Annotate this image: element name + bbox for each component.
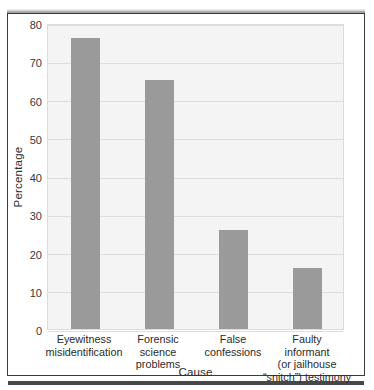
y-axis-tick-label: 80 — [0, 20, 42, 31]
y-axis-tick-label: 20 — [0, 249, 42, 260]
y-axis-tick-label: 40 — [0, 173, 42, 184]
y-axis-tick-label: 60 — [0, 96, 42, 107]
y-axis-tick-label: 10 — [0, 287, 42, 298]
bar — [71, 38, 100, 329]
plot-area: Percentage 01020304050607080 — [47, 24, 344, 330]
x-axis-label: Cause — [47, 366, 344, 378]
x-axis-category-label-line: informant — [261, 346, 353, 359]
bar-chart: Percentage 01020304050607080 Eyewitnessm… — [0, 0, 374, 390]
y-axis-tick-label: 0 — [0, 326, 42, 337]
y-axis-tick-label: 30 — [0, 211, 42, 222]
bar — [293, 268, 322, 329]
bar — [145, 80, 174, 329]
bar — [219, 230, 248, 329]
y-axis-tick-label: 70 — [0, 58, 42, 69]
y-axis-tick-label: 50 — [0, 134, 42, 145]
gridline — [48, 331, 343, 332]
x-axis-category-label-line: Faulty — [261, 333, 353, 346]
gridline — [48, 25, 343, 26]
